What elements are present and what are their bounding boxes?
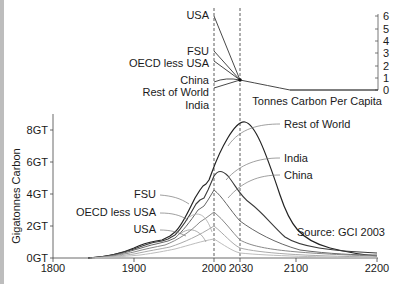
y-tick-2gt: 2GT: [27, 220, 49, 232]
world-per-capita-line: [240, 80, 378, 90]
per-capita-tick-1: 1: [383, 72, 389, 84]
y-tick-4gt: 4GT: [27, 188, 49, 200]
per-capita-tick-6: 6: [383, 10, 389, 22]
label-usa: USA: [133, 223, 156, 235]
emissions-panel: 0GT 2GT 4GT 6GT 8GT Gigatonnes Carbon 18…: [10, 114, 389, 274]
per-capita-tick-4: 4: [383, 35, 389, 47]
label-usa-top: USA: [186, 9, 209, 21]
fsu-per-capita-line: [214, 51, 240, 80]
label-row-top: Rest of World: [143, 86, 209, 98]
per-capita-tick-0: 0: [383, 84, 389, 96]
label-fsu: FSU: [134, 188, 156, 200]
x-tick-2000: 2000: [202, 262, 226, 274]
source-annotation: Source: GCI 2003: [297, 226, 385, 238]
x-tick-2200: 2200: [365, 262, 389, 274]
label-rest-of-world: Rest of World: [284, 118, 350, 130]
y-tick-8gt: 8GT: [27, 124, 49, 136]
label-india: India: [284, 152, 309, 164]
label-china-top: China: [180, 74, 210, 86]
label-oecd-less-usa: OECD less USA: [76, 206, 157, 218]
label-fsu-top: FSU: [187, 45, 209, 57]
chart-canvas: 0 1 2 3 4 5 6 USA FSU OECD less USA Chin…: [0, 0, 397, 284]
y-tick-6gt: 6GT: [27, 156, 49, 168]
row-per-capita-line: [214, 80, 240, 88]
fsu-leader: [160, 195, 189, 204]
per-capita-tick-3: 3: [383, 47, 389, 59]
usa-curve: [95, 239, 377, 258]
x-tick-2030: 2030: [229, 262, 253, 274]
per-capita-panel: 0 1 2 3 4 5 6 USA FSU OECD less USA Chin…: [129, 8, 389, 258]
china-curve: [88, 190, 377, 258]
usa-hump-line: [180, 230, 206, 242]
india-leader: [226, 158, 280, 180]
label-china: China: [284, 169, 314, 181]
x-tick-1900: 1900: [122, 262, 146, 274]
per-capita-tick-2: 2: [383, 60, 389, 72]
label-india-top: India: [185, 99, 210, 111]
label-oecd-top: OECD less USA: [129, 57, 210, 69]
per-capita-axis-title: Tonnes Carbon Per Capita: [252, 95, 383, 107]
per-capita-tick-5: 5: [383, 23, 389, 35]
x-tick-1800: 1800: [41, 262, 65, 274]
y-axis-title: Gigatonnes Carbon: [10, 148, 22, 243]
x-tick-2100: 2100: [284, 262, 308, 274]
convergence-point: [238, 78, 242, 82]
